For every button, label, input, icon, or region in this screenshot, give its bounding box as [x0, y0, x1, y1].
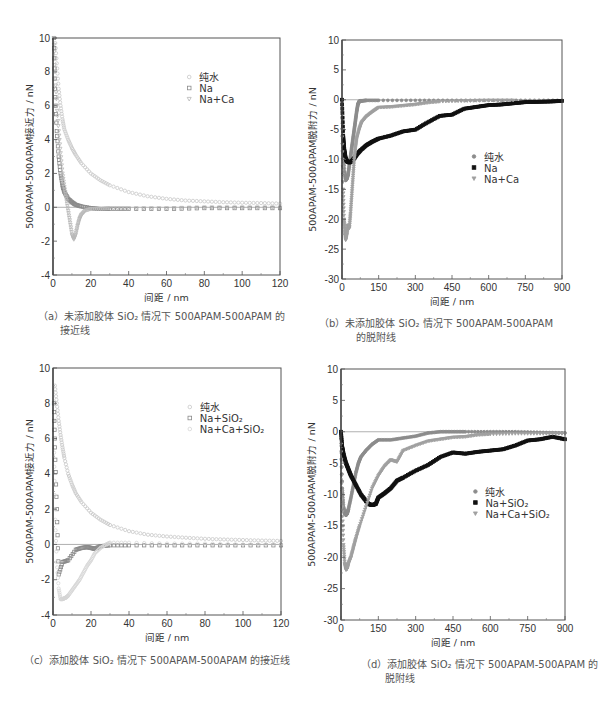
- y-tick-label: -20: [325, 214, 340, 225]
- y-tick-label: 5: [333, 64, 339, 75]
- y-tick-label: 8: [44, 66, 50, 77]
- x-tick-label: 120: [272, 278, 289, 289]
- y-axis-title: 500APAM-500APAM脱附力 / nN: [306, 422, 317, 567]
- x-tick-label: 0: [50, 618, 56, 629]
- y-tick-label: -25: [325, 244, 340, 255]
- x-tick-label: 750: [519, 623, 536, 634]
- x-tick-label: 150: [370, 623, 387, 634]
- y-tick-label: -20: [324, 552, 339, 563]
- series-1: [52, 36, 281, 210]
- x-tick-label: 0: [338, 623, 344, 634]
- chart-c: 020406080100120-4-20246810间距 / nm500APAM…: [0, 345, 301, 704]
- figure-panel-b: 0150300450600750900-30-25-20-15-10-50510…: [301, 0, 602, 345]
- y-axis-title: 500APAM-500APAM接近力 / nN: [24, 419, 35, 564]
- legend-label: 纯水: [485, 486, 505, 498]
- x-tick-label: 60: [161, 618, 173, 629]
- series-0: [53, 384, 282, 542]
- x-tick-label: 60: [161, 278, 173, 289]
- plot-frame: [342, 40, 562, 279]
- legend-label: Na+Ca: [199, 94, 234, 105]
- x-tick-label: 20: [85, 278, 97, 289]
- legend-label: Na: [199, 83, 213, 94]
- x-tick-label: 300: [407, 282, 424, 293]
- y-tick-label: -5: [330, 124, 339, 135]
- x-axis-title: 间距 / nm: [144, 292, 189, 303]
- legend-label: Na+SiO₂: [485, 498, 528, 509]
- legend: 纯水NaNa+Ca: [472, 151, 519, 185]
- chart-a: 020406080100120-4-20246810间距 / nm500APAM…: [0, 0, 301, 345]
- y-tick-label: 10: [327, 364, 339, 375]
- y-tick-label: 6: [44, 433, 50, 444]
- x-axis-title: 间距 / nm: [430, 296, 475, 307]
- x-tick-label: 120: [273, 618, 290, 629]
- legend-label: 纯水: [199, 71, 219, 83]
- caption-b-line2: 的脱附线: [356, 331, 396, 344]
- y-tick-label: -15: [325, 184, 340, 195]
- legend-label: Na+Ca: [484, 174, 519, 185]
- y-tick-label: 0: [44, 202, 50, 213]
- legend-label: Na: [484, 163, 498, 174]
- legend-label: 纯水: [484, 151, 504, 163]
- y-tick-label: 10: [39, 363, 51, 374]
- x-tick-label: 600: [482, 623, 499, 634]
- y-tick-label: 4: [44, 468, 50, 479]
- x-tick-label: 40: [123, 618, 135, 629]
- y-tick-label: 0: [332, 426, 338, 437]
- figure-panel-a: 020406080100120-4-20246810间距 / nm500APAM…: [0, 0, 301, 345]
- x-tick-label: 80: [199, 278, 211, 289]
- legend: 纯水Na+SiO₂Na+Ca+SiO₂: [473, 486, 549, 520]
- x-tick-label: 900: [554, 282, 571, 293]
- x-tick-label: 300: [407, 623, 424, 634]
- legend-label: Na+Ca+SiO₂: [200, 424, 264, 435]
- figure-panel-c: 020406080100120-4-20246810间距 / nm500APAM…: [0, 345, 301, 704]
- chart-b: 0150300450600750900-30-25-20-15-10-50510…: [301, 0, 602, 345]
- legend: 纯水Na+SiO₂Na+Ca+SiO₂: [188, 401, 264, 435]
- y-tick-label: -2: [41, 574, 50, 585]
- x-tick-label: 150: [370, 282, 387, 293]
- figure-panel-d: 0150300450600750900-30-25-20-15-10-50510…: [301, 345, 602, 704]
- caption-a-line1: （a）未添加胶体 SiO₂ 情况下 500APAM-500APAM 的: [38, 310, 285, 323]
- x-tick-label: 100: [234, 278, 251, 289]
- y-tick-label: -30: [325, 274, 340, 285]
- y-axis-title: 500APAM-500APAM脱附力 / nN: [307, 87, 318, 232]
- chart-d: 0150300450600750900-30-25-20-15-10-50510…: [301, 345, 602, 704]
- x-tick-label: 900: [557, 623, 574, 634]
- y-tick-label: -4: [41, 610, 50, 621]
- y-tick-label: -25: [324, 583, 339, 594]
- y-tick-label: -10: [324, 489, 339, 500]
- x-tick-label: 40: [123, 278, 135, 289]
- y-tick-label: 10: [39, 33, 51, 44]
- y-tick-label: -2: [41, 236, 50, 247]
- legend-label: Na+Ca+SiO₂: [485, 509, 549, 520]
- x-tick-label: 750: [517, 282, 534, 293]
- y-tick-label: 4: [44, 134, 50, 145]
- y-tick-label: 6: [44, 100, 50, 111]
- x-tick-label: 0: [50, 278, 56, 289]
- y-tick-label: 8: [44, 398, 50, 409]
- y-tick-label: 0: [44, 539, 50, 550]
- y-tick-label: -30: [324, 615, 339, 626]
- x-tick-label: 80: [199, 618, 211, 629]
- x-tick-label: 0: [339, 282, 345, 293]
- caption-a-line2: 接近线: [60, 324, 90, 337]
- y-tick-label: -10: [325, 154, 340, 165]
- plot-frame: [53, 368, 281, 615]
- y-tick-label: 2: [44, 168, 50, 179]
- x-tick-label: 450: [444, 282, 461, 293]
- legend-label: 纯水: [200, 401, 220, 413]
- legend: 纯水NaNa+Ca: [187, 71, 234, 105]
- x-tick-label: 450: [445, 623, 462, 634]
- y-tick-label: 0: [333, 94, 339, 105]
- y-tick-label: 2: [44, 504, 50, 515]
- series-0: [53, 36, 281, 205]
- x-axis-title: 间距 / nm: [145, 632, 190, 643]
- caption-d-line2: 脱附线: [385, 672, 415, 685]
- x-axis-title: 间距 / nm: [431, 637, 476, 648]
- caption-c-line1: （c）添加胶体 SiO₂ 情况下 500APAM-500APAM 的接近线: [24, 654, 290, 667]
- y-tick-label: 5: [332, 395, 338, 406]
- y-axis-title: 500APAM-500APAM接近力 / nN: [24, 84, 35, 229]
- caption-d-line1: （d）添加胶体 SiO₂ 情况下 500APAM-500APAM 的: [361, 658, 598, 671]
- y-tick-label: -4: [41, 270, 50, 281]
- y-tick-label: -15: [324, 520, 339, 531]
- series-2: [52, 437, 282, 601]
